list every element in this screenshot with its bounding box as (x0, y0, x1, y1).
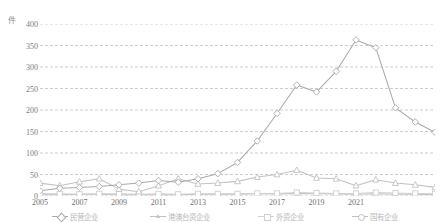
y-axis-tick-label: 100 (4, 149, 38, 158)
y-axis-tick-label: 350 (4, 41, 38, 50)
data-point-marker (76, 184, 83, 191)
series-group (40, 190, 435, 196)
legend-item[interactable]: 国有企业 (352, 211, 398, 222)
data-point-marker (373, 44, 380, 51)
legend-item-label: 港澳台资企业 (168, 211, 210, 222)
x-axis-tick-label: 2015 (230, 198, 246, 207)
legend-item[interactable]: 外资企业 (258, 211, 304, 222)
y-axis-tick-label: 250 (4, 84, 38, 93)
y-axis-tick-label: 400 (4, 20, 38, 29)
x-axis-tick-label: 2017 (269, 198, 285, 207)
data-point-marker (215, 191, 220, 196)
data-point-marker (413, 191, 418, 196)
data-point-marker (373, 190, 378, 195)
x-axis-tick-label: 2013 (190, 198, 206, 207)
data-point-marker (195, 176, 202, 183)
data-point-marker (97, 191, 102, 196)
data-point-marker (116, 191, 121, 196)
data-point-marker (432, 129, 435, 136)
y-axis-tick-label: 150 (4, 127, 38, 136)
data-point-marker (77, 192, 82, 196)
x-axis: 200520072009201120132015201720192021 (0, 198, 443, 210)
data-point-marker (294, 82, 301, 89)
data-point-marker (274, 191, 279, 196)
data-point-marker (334, 191, 339, 196)
data-point-marker (314, 190, 319, 195)
legend-item[interactable]: 民营企业 (52, 211, 98, 222)
legend-swatch-icon (258, 213, 274, 220)
data-point-marker (432, 191, 435, 196)
legend-item-label: 外资企业 (276, 211, 304, 222)
y-axis-tick-label: 50 (4, 170, 38, 179)
legend-item[interactable]: 港澳台资企业 (150, 211, 210, 222)
data-point-marker (40, 180, 43, 186)
data-point-marker (294, 167, 300, 173)
data-point-marker (255, 191, 260, 196)
x-axis-tick-label: 2021 (348, 198, 364, 207)
legend-swatch-icon (150, 213, 166, 220)
x-axis-tick-label: 2019 (309, 198, 325, 207)
legend-item-label: 国有企业 (370, 211, 398, 222)
data-point-marker (373, 176, 379, 182)
data-point-marker (155, 177, 162, 184)
y-axis: 400350300250200150100500 (0, 0, 38, 222)
plot-area (40, 24, 435, 196)
data-point-marker (235, 191, 240, 196)
y-axis-tick-label: 200 (4, 106, 38, 115)
data-point-marker (116, 182, 123, 189)
data-point-marker (195, 191, 200, 196)
x-axis-tick-label: 2005 (32, 198, 48, 207)
chart-legend: 民营企业港澳台资企业外资企业国有企业 (0, 211, 443, 222)
data-point-marker (353, 191, 358, 196)
data-point-marker (393, 190, 398, 195)
chart-plot-svg (40, 24, 435, 196)
data-point-marker (96, 183, 103, 190)
legend-item-label: 民营企业 (70, 211, 98, 222)
data-point-marker (353, 37, 360, 44)
x-axis-tick-label: 2011 (151, 198, 167, 207)
series-group (40, 37, 435, 194)
data-point-marker (136, 180, 143, 187)
series-line (40, 40, 435, 191)
x-axis-tick-label: 2009 (111, 198, 127, 207)
legend-swatch-icon (52, 213, 68, 220)
data-point-marker (96, 176, 102, 182)
legend-swatch-icon (352, 213, 368, 220)
data-point-marker (215, 170, 222, 177)
chart-container: 件 400350300250200150100500 2005200720092… (0, 0, 443, 222)
y-axis-tick-label: 300 (4, 63, 38, 72)
x-axis-tick-label: 2007 (72, 198, 88, 207)
data-point-marker (294, 190, 299, 195)
data-point-marker (156, 191, 161, 196)
data-point-marker (176, 192, 181, 196)
